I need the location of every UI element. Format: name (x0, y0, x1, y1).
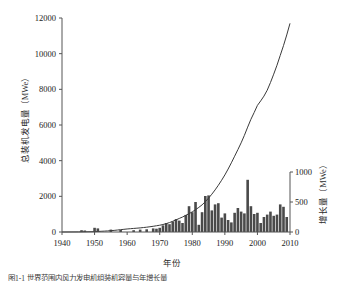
chart-axes (59, 18, 293, 235)
bar (279, 204, 282, 232)
bar (207, 195, 210, 232)
bar (282, 207, 285, 232)
tick-label: 6000 (39, 120, 56, 130)
bar (253, 214, 256, 232)
bar (266, 215, 269, 232)
bar (152, 228, 155, 232)
bar (191, 212, 194, 232)
tick-label: 1950 (86, 238, 103, 248)
chart-plot-area: 0200040006000800010000120000500100019401… (0, 0, 344, 281)
bar (272, 216, 275, 232)
bar (240, 212, 243, 232)
tick-label: 1940 (54, 238, 71, 248)
bar (162, 225, 165, 232)
bar (276, 215, 279, 232)
y-axis-right-title: 增长量（MWe） (316, 144, 328, 240)
tick-label: 8000 (39, 84, 56, 94)
tick-label: 12000 (35, 13, 56, 23)
bar (201, 212, 204, 232)
bar (227, 220, 230, 232)
bar (184, 215, 187, 232)
bar (181, 223, 184, 232)
tick-label: 1970 (151, 238, 168, 248)
bar (214, 204, 217, 232)
tick-label: 0 (52, 227, 56, 237)
bar-series-growth (80, 180, 288, 232)
bar (198, 225, 201, 232)
bar (233, 213, 236, 232)
bar (256, 213, 259, 232)
bar (168, 224, 171, 232)
bar (220, 218, 223, 232)
tick-label: 500 (295, 197, 308, 207)
bar (217, 203, 220, 232)
figure-container: 0200040006000800010000120000500100019401… (0, 0, 344, 281)
tick-label: 10000 (35, 49, 56, 59)
bar (285, 217, 288, 232)
bar (250, 206, 253, 232)
bar (230, 222, 233, 232)
figure-caption: 图1-1 世界范围内风力发电机组装机容量与年增长量 (8, 272, 344, 281)
bar (243, 213, 246, 232)
x-axis-title: 年份 (0, 256, 344, 268)
tick-label: 1990 (216, 238, 233, 248)
tick-label: 1000 (295, 167, 312, 177)
line-series-cumulative (62, 23, 290, 232)
bar (158, 228, 161, 232)
tick-label: 1980 (184, 238, 201, 248)
y-axis-left-title: 总装机发电量（MWe） (18, 58, 30, 178)
tick-label: 2000 (39, 191, 56, 201)
tick-label: 2010 (282, 238, 299, 248)
bar (263, 217, 266, 232)
bar (211, 210, 214, 232)
bar (175, 219, 178, 232)
bar (224, 213, 227, 232)
bar (269, 212, 272, 232)
bar (259, 223, 262, 232)
bar (246, 180, 249, 232)
bar (188, 206, 191, 232)
bar (171, 222, 174, 233)
tick-label: 0 (295, 227, 299, 237)
bar (194, 202, 197, 232)
tick-label: 1960 (119, 238, 136, 248)
tick-label: 2000 (249, 238, 266, 248)
bar (237, 208, 240, 232)
tick-label: 4000 (39, 156, 56, 166)
bar (178, 221, 181, 232)
